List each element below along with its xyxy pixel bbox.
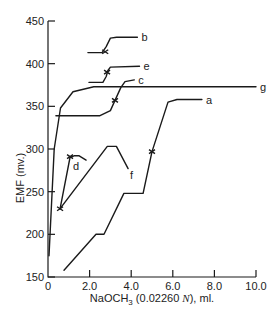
curve-label-c: c [138, 74, 144, 86]
curves [49, 37, 256, 270]
y-tick-label: 150 [26, 271, 44, 283]
y-tick-label: 450 [26, 15, 44, 27]
x-tick-label: 0 [45, 280, 51, 292]
curve-a [64, 100, 202, 271]
y-tick-label: 400 [26, 58, 44, 70]
curve-label-f: f [130, 169, 134, 181]
x-tick-label: 6.0 [165, 280, 180, 292]
x-tick-label: 4.0 [124, 280, 139, 292]
y-axis-label: EMF (mv.) [14, 153, 26, 204]
axis-lines [48, 21, 256, 277]
curve-label-b: b [141, 31, 147, 43]
titration-chart: 15020025030035040045002.04.06.08.010.0 a… [0, 0, 277, 318]
curve-b [88, 37, 137, 52]
curve-label-g: g [260, 81, 266, 93]
x-axis-label: NaOCH3 (0.02260 N), ml. [90, 292, 214, 307]
x-tick-label: 8.0 [207, 280, 222, 292]
x-tick-label: 2.0 [82, 280, 97, 292]
axes: 15020025030035040045002.04.06.08.010.0 [26, 15, 267, 292]
y-tick-label: 200 [26, 228, 44, 240]
curve-label-d: d [73, 160, 79, 172]
x-tick-label: 10.0 [245, 280, 266, 292]
curve-labels: abcdefg [73, 31, 266, 180]
curve-label-a: a [206, 94, 213, 106]
y-tick-label: 350 [26, 100, 44, 112]
curve-g [49, 87, 256, 256]
curve-label-e: e [144, 60, 150, 72]
y-tick-label: 300 [26, 143, 44, 155]
y-tick-label: 250 [26, 186, 44, 198]
